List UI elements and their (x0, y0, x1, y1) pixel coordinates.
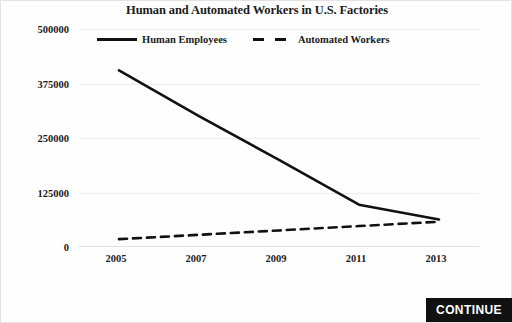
x-tick-2009: 2009 (246, 253, 306, 264)
y-tick-250000: 250000 (1, 133, 69, 144)
y-tick-125000: 125000 (1, 187, 69, 198)
continue-button[interactable]: CONTINUE (426, 298, 512, 322)
chart-series-layer (79, 29, 479, 247)
y-tick-500000: 500000 (1, 24, 69, 35)
chart-title: Human and Automated Workers in U.S. Fact… (1, 3, 512, 18)
x-tick-2013: 2013 (406, 253, 466, 264)
series-line-automated-workers (119, 222, 439, 239)
x-tick-2011: 2011 (326, 253, 386, 264)
y-tick-0: 0 (1, 242, 69, 253)
series-line-human-employees (119, 70, 439, 219)
x-tick-2007: 2007 (166, 253, 226, 264)
chart-frame: Human and Automated Workers in U.S. Fact… (0, 0, 512, 323)
x-axis-tick-labels: 2005 2007 2009 2011 2013 (79, 253, 479, 273)
plot-area (79, 29, 479, 247)
x-tick-2005: 2005 (86, 253, 146, 264)
y-tick-375000: 375000 (1, 78, 69, 89)
